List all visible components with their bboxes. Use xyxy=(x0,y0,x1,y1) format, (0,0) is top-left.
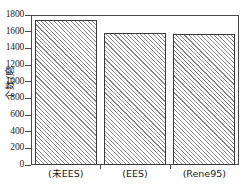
y-tick-label: 600 xyxy=(0,110,24,120)
bar-chart: 个数/磨 020040060080010001200140016001800 (… xyxy=(0,0,245,193)
y-tick-label: 200 xyxy=(0,143,24,153)
y-tick-mark xyxy=(25,81,31,82)
y-tick-mark xyxy=(25,98,31,99)
y-tick-mark xyxy=(25,15,31,16)
x-axis-label: (EES) xyxy=(100,168,169,179)
y-tick-label: 1600 xyxy=(0,27,24,37)
y-tick-mark xyxy=(25,165,31,166)
y-tick-label: 400 xyxy=(0,127,24,137)
y-tick-mark xyxy=(25,131,31,132)
bar xyxy=(104,33,166,165)
x-axis-label: (未EES) xyxy=(31,168,100,179)
bar xyxy=(35,20,97,165)
y-tick-label: 800 xyxy=(0,93,24,103)
y-tick-mark xyxy=(25,48,31,49)
y-tick-label: 1800 xyxy=(0,10,24,20)
y-tick-mark xyxy=(25,148,31,149)
y-tick-label: 1200 xyxy=(0,60,24,70)
x-axis-label: (Rene95) xyxy=(170,168,239,179)
y-tick-mark xyxy=(25,115,31,116)
y-tick-mark xyxy=(25,31,31,32)
y-tick-label: 1400 xyxy=(0,43,24,53)
y-tick-label: 0 xyxy=(0,160,24,170)
y-tick-mark xyxy=(25,65,31,66)
bar xyxy=(173,34,235,165)
y-tick-label: 1000 xyxy=(0,77,24,87)
